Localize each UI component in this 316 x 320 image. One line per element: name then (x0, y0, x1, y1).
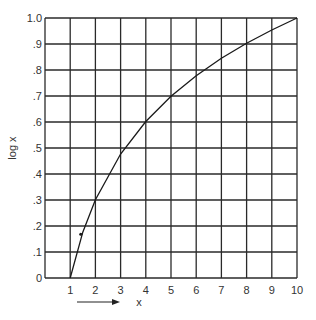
y-tick-label: .3 (33, 194, 42, 206)
log-chart: 0.1.2.3.4.5.6.7.8.91.0 12345678910 log x… (0, 0, 316, 320)
y-tick-label: .1 (33, 246, 42, 258)
x-tick-label: 1 (67, 284, 73, 296)
y-axis-label: log x (6, 136, 18, 160)
y-tick-labels: 0.1.2.3.4.5.6.7.8.91.0 (27, 12, 42, 284)
x-tick-label: 8 (244, 284, 250, 296)
y-tick-label: .6 (33, 116, 42, 128)
y-tick-label: 0 (36, 272, 42, 284)
y-tick-label: .9 (33, 38, 42, 50)
data-point-dot (79, 233, 82, 236)
grid-lines (45, 18, 297, 278)
x-tick-label: 7 (218, 284, 224, 296)
y-tick-label: .5 (33, 142, 42, 154)
x-tick-label: 3 (118, 284, 124, 296)
x-tick-label: 9 (269, 284, 275, 296)
y-tick-label: .4 (33, 168, 42, 180)
x-tick-label: 4 (143, 284, 149, 296)
y-tick-label: .7 (33, 90, 42, 102)
y-tick-label: .8 (33, 64, 42, 76)
x-tick-label: 10 (291, 284, 303, 296)
x-axis-label: x (136, 296, 142, 308)
x-direction-arrow-icon (77, 299, 120, 305)
x-tick-label: 2 (92, 284, 98, 296)
x-tick-label: 6 (193, 284, 199, 296)
y-tick-label: .2 (33, 220, 42, 232)
x-tick-label: 5 (168, 284, 174, 296)
x-tick-labels: 12345678910 (67, 284, 303, 296)
y-tick-label: 1.0 (27, 12, 42, 24)
